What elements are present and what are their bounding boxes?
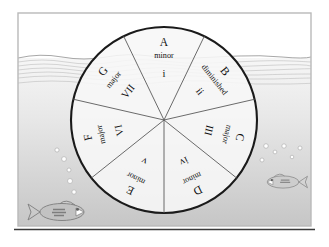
bubble <box>290 155 294 159</box>
bubble <box>273 150 277 154</box>
sector-numeral-a-minor: i <box>163 68 166 79</box>
bubble <box>68 179 73 184</box>
bubble <box>72 190 76 194</box>
diagram-canvas: AminoriBdiminishediiCmajorIIIDminorivEmi… <box>0 0 329 247</box>
bubble <box>67 168 71 172</box>
sector-quality-a-minor: minor <box>154 51 174 60</box>
bubble <box>298 146 302 150</box>
diatonic-wheel[interactable]: AminoriBdiminishediiCmajorIIIDminorivEmi… <box>71 27 257 213</box>
bubble <box>282 144 286 148</box>
bubble <box>62 157 67 162</box>
sector-root-a-minor: A <box>160 36 169 48</box>
bubble <box>260 158 264 162</box>
bubble <box>55 148 59 152</box>
bubble <box>264 144 269 149</box>
